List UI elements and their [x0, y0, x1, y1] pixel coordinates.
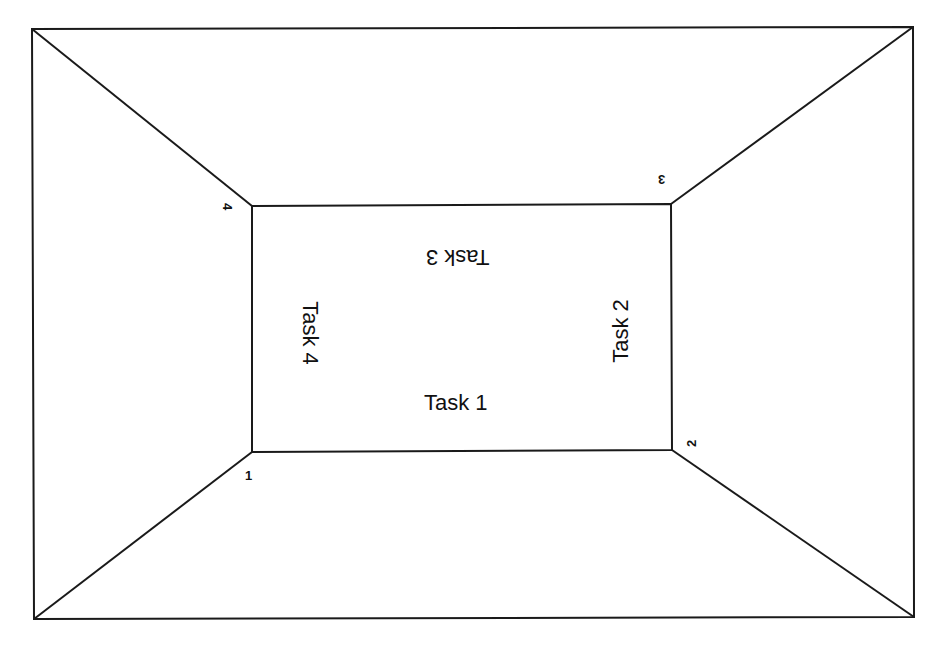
task-3-label: Task 3 [426, 244, 490, 270]
diagonal-top-left [32, 29, 252, 206]
corner-4-label: 4 [220, 203, 235, 210]
diagonal-bottom-left [34, 452, 252, 619]
task-1-label: Task 1 [424, 390, 488, 416]
corner-2-label: 2 [684, 440, 699, 447]
room-diagram [0, 0, 948, 645]
task-2-label: Task 2 [608, 299, 634, 363]
corner-1-label: 1 [245, 468, 252, 483]
diagonal-top-right [671, 27, 913, 204]
corner-3-label: 3 [658, 172, 665, 187]
outer-rectangle [32, 27, 914, 619]
diagonal-bottom-right [672, 450, 914, 617]
task-4-label: Task 4 [297, 301, 323, 365]
